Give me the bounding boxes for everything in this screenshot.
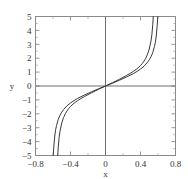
chart-figure: −0.8−0.400.40.8 −5−4−3−2−1012345 x y — [0, 0, 188, 178]
y-tick-label: 5 — [27, 12, 32, 22]
y-tick-label: 4 — [27, 26, 32, 36]
y-tick-label: 3 — [27, 40, 32, 50]
plot-area: −0.8−0.400.40.8 −5−4−3−2−1012345 x y — [0, 0, 188, 178]
y-tick-label: −3 — [22, 123, 32, 133]
y-tick-label: 2 — [27, 53, 32, 63]
x-tick-label: 0 — [103, 159, 108, 169]
y-axis-label: y — [10, 81, 15, 91]
y-tick-label: −2 — [22, 109, 32, 119]
x-tick-label: 0.8 — [170, 159, 182, 169]
x-tick-label: −0.4 — [62, 159, 79, 169]
y-tick-label: −4 — [22, 137, 32, 147]
y-tick-label: 0 — [27, 81, 32, 91]
x-tick-label: 0.4 — [135, 159, 147, 169]
y-tick-label: 1 — [27, 67, 32, 77]
y-tick-label: −5 — [22, 151, 32, 161]
y-tick-label: −1 — [22, 95, 32, 105]
x-axis-label: x — [103, 169, 108, 179]
